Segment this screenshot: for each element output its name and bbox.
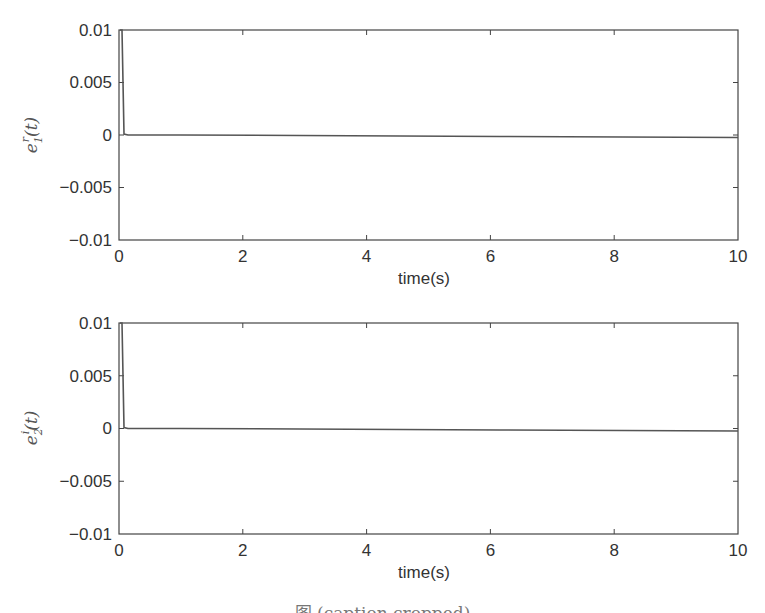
x-tick-label: 2: [238, 541, 247, 560]
x-axis-label: time(s): [398, 563, 450, 582]
y-tick-label: 0.01: [79, 314, 112, 333]
figure-caption: 图 (caption cropped): [0, 600, 765, 613]
x-tick-label: 10: [729, 541, 748, 560]
chart-e2i-canvas: 0.01 0.005 0 −0.005 −0.01 0 2 4 6 8 10 t…: [0, 0, 765, 600]
x-tick-label: 6: [486, 541, 495, 560]
x-tick-label: 8: [609, 541, 618, 560]
x-tick-label: 0: [114, 541, 123, 560]
y-tick-label: −0.01: [69, 525, 112, 544]
y-axis-label: e2i(t): [19, 411, 45, 446]
svg-text:e2i(t): e2i(t): [19, 411, 45, 446]
series-line-e2i: [120, 323, 738, 431]
x-tick-label: 4: [362, 541, 371, 560]
chart-e2i: 0.01 0.005 0 −0.005 −0.01 0 2 4 6 8 10 t…: [0, 0, 765, 600]
y-tick-label: 0: [103, 419, 112, 438]
y-tick-label: 0.005: [69, 367, 112, 386]
y-tick-label: −0.005: [60, 472, 112, 491]
